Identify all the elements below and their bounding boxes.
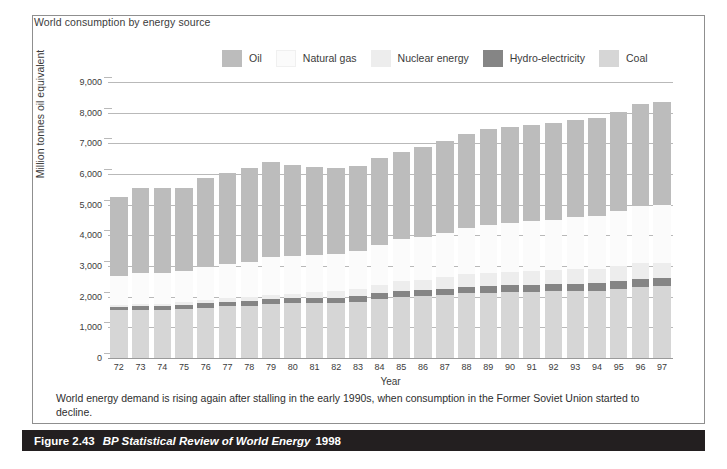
bar-segment-oil <box>458 134 475 228</box>
bar-segment-oil <box>480 129 497 225</box>
bar-segment-oil <box>501 127 518 223</box>
bar-segment-coal <box>154 310 171 358</box>
bar-segment-oil <box>197 178 214 267</box>
bar-segment-oil <box>175 188 192 270</box>
bar-segment-natural-gas <box>306 255 323 293</box>
bar-segment-nuclear-energy <box>371 285 388 293</box>
gridline-8000 <box>108 113 673 114</box>
bar-segment-coal <box>501 292 518 358</box>
legend-item-natural-gas: Natural gas <box>276 50 357 67</box>
x-tick-label-72: 72 <box>114 362 124 372</box>
y-tick-label: 5,000 <box>56 200 102 210</box>
bar-segment-oil <box>349 166 366 251</box>
bar-segment-coal <box>175 309 192 358</box>
legend-label: Coal <box>626 52 648 64</box>
bar-73 <box>132 188 149 358</box>
bar-segment-coal <box>436 295 453 358</box>
x-tick-label-89: 89 <box>483 362 493 372</box>
bar-segment-nuclear-energy <box>349 289 366 296</box>
bar-segment-coal <box>653 286 670 358</box>
bar-segment-coal <box>327 303 344 358</box>
bar-segment-oil <box>219 173 236 264</box>
x-tick-label-79: 79 <box>266 362 276 372</box>
x-tick-label-80: 80 <box>288 362 298 372</box>
bar-segment-natural-gas <box>219 264 236 298</box>
bar-segment-oil <box>436 141 453 233</box>
y-tick-label: 9,000 <box>56 77 102 87</box>
figure-caption-number: Figure 2.43 <box>34 435 95 447</box>
bar-segment-nuclear-energy <box>393 281 410 291</box>
legend-item-nuclear-energy: Nuclear energy <box>371 50 469 67</box>
bar-segment-coal <box>458 293 475 358</box>
bar-segment-oil <box>371 158 388 245</box>
bar-segment-nuclear-energy <box>523 271 540 285</box>
x-tick-label-94: 94 <box>592 362 602 372</box>
bar-segment-natural-gas <box>393 239 410 281</box>
bar-segment-coal <box>545 291 562 358</box>
y-tick-label: 7,000 <box>56 138 102 148</box>
x-tick-label-78: 78 <box>244 362 254 372</box>
bar-segment-coal <box>241 306 258 358</box>
bar-81 <box>306 167 323 358</box>
bar-75 <box>175 188 192 358</box>
chart-legend: OilNatural gasNuclear energyHydro-electr… <box>222 48 662 68</box>
bar-segment-natural-gas <box>371 245 388 285</box>
x-tick-label-97: 97 <box>657 362 667 372</box>
legend-item-hydro-electricity: Hydro-electricity <box>483 50 585 67</box>
x-tick-label-85: 85 <box>396 362 406 372</box>
figure-caption-year: 1998 <box>315 435 341 447</box>
y-tick-label: 0 <box>56 353 102 363</box>
bar-segment-natural-gas <box>458 228 475 274</box>
x-tick-label-76: 76 <box>201 362 211 372</box>
bar-segment-oil <box>414 147 431 237</box>
bar-82 <box>327 168 344 358</box>
bar-segment-natural-gas <box>632 206 649 264</box>
bar-segment-oil <box>545 123 562 220</box>
bar-segment-oil <box>262 162 279 258</box>
bar-segment-oil <box>610 112 627 211</box>
bar-84 <box>371 158 388 358</box>
bar-85 <box>393 152 410 358</box>
x-tick-label-83: 83 <box>353 362 363 372</box>
bar-88 <box>458 134 475 358</box>
bar-segment-natural-gas <box>436 233 453 277</box>
bar-segment-coal <box>588 291 605 358</box>
x-tick-label-87: 87 <box>440 362 450 372</box>
bar-74 <box>154 188 171 358</box>
x-tick-label-93: 93 <box>570 362 580 372</box>
bar-76 <box>197 178 214 358</box>
bar-segment-natural-gas <box>327 254 344 291</box>
x-tick-label-74: 74 <box>157 362 167 372</box>
x-tick-label-84: 84 <box>375 362 385 372</box>
legend-swatch-natural-gas <box>276 50 296 67</box>
bar-segment-hydro-electricity <box>567 284 584 291</box>
bar-94 <box>588 118 605 358</box>
legend-label: Natural gas <box>303 52 357 64</box>
bar-segment-hydro-electricity <box>632 279 649 287</box>
x-tick-label-96: 96 <box>635 362 645 372</box>
bar-segment-coal <box>371 299 388 358</box>
bar-segment-nuclear-energy <box>588 269 605 284</box>
bar-segment-hydro-electricity <box>523 285 540 292</box>
bar-segment-hydro-electricity <box>653 278 670 286</box>
bar-segment-nuclear-energy <box>436 277 453 288</box>
x-tick-label-95: 95 <box>614 362 624 372</box>
bar-segment-coal <box>284 303 301 358</box>
legend-label: Hydro-electricity <box>510 52 585 64</box>
bar-segment-coal <box>262 304 279 358</box>
chart-heading: World consumption by energy source <box>34 16 211 28</box>
bar-segment-coal <box>567 291 584 358</box>
bar-segment-natural-gas <box>567 217 584 269</box>
legend-swatch-hydro-electricity <box>483 50 503 67</box>
bar-segment-natural-gas <box>132 273 149 304</box>
bar-segment-hydro-electricity <box>610 281 627 289</box>
bar-segment-coal <box>632 287 649 358</box>
y-tick-label: 6,000 <box>56 169 102 179</box>
bar-segment-oil <box>327 168 344 254</box>
legend-item-coal: Coal <box>599 50 648 67</box>
gridline-0 <box>108 358 673 359</box>
bar-segment-natural-gas <box>523 221 540 271</box>
bar-segment-nuclear-energy <box>480 273 497 286</box>
bar-segment-natural-gas <box>501 223 518 272</box>
y-tick-label: 3,000 <box>56 261 102 271</box>
